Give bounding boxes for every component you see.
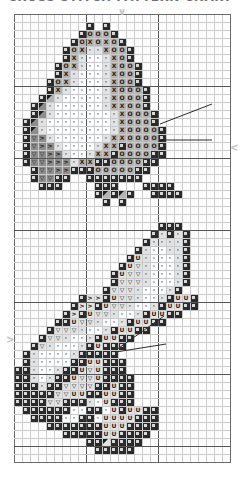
stitch-cell[interactable]: ·	[62, 134, 70, 142]
stitch-cell[interactable]: O	[134, 126, 142, 134]
stitch-cell[interactable]	[94, 430, 102, 438]
stitch-cell[interactable]: ·	[94, 102, 102, 110]
stitch-cell[interactable]: O	[150, 126, 158, 134]
stitch-cell[interactable]	[110, 350, 118, 358]
stitch-cell[interactable]: ·	[110, 110, 118, 118]
stitch-cell[interactable]: ·	[94, 134, 102, 142]
stitch-cell[interactable]	[22, 382, 30, 390]
stitch-cell[interactable]: ▽	[118, 302, 126, 310]
stitch-cell[interactable]: ·	[46, 110, 54, 118]
stitch-cell[interactable]: ·	[86, 134, 94, 142]
stitch-cell[interactable]: ·	[86, 102, 94, 110]
stitch-cell[interactable]	[126, 446, 134, 454]
stitch-cell[interactable]: U	[134, 406, 142, 414]
stitch-cell[interactable]: ·	[166, 254, 174, 262]
stitch-cell[interactable]: X	[54, 86, 62, 94]
stitch-cell[interactable]	[150, 422, 158, 430]
stitch-cell[interactable]: ▽	[134, 270, 142, 278]
stitch-cell[interactable]: X	[62, 70, 70, 78]
stitch-cell[interactable]: U	[126, 406, 134, 414]
stitch-cell[interactable]	[110, 30, 118, 38]
stitch-cell[interactable]: ·	[54, 342, 62, 350]
stitch-cell[interactable]: ·	[94, 414, 102, 422]
stitch-cell[interactable]	[102, 358, 110, 366]
stitch-cell[interactable]	[94, 446, 102, 454]
stitch-cell[interactable]: ·	[38, 118, 46, 126]
stitch-cell[interactable]	[22, 126, 30, 134]
stitch-cell[interactable]	[134, 70, 142, 78]
stitch-cell[interactable]	[182, 238, 190, 246]
stitch-cell[interactable]	[118, 198, 126, 206]
stitch-cell[interactable]: ·	[142, 302, 150, 310]
stitch-cell[interactable]	[150, 318, 158, 326]
stitch-cell[interactable]: ·	[174, 270, 182, 278]
stitch-cell[interactable]	[38, 398, 46, 406]
stitch-cell[interactable]: >	[38, 142, 46, 150]
stitch-cell[interactable]: O	[150, 142, 158, 150]
stitch-cell[interactable]: U	[166, 302, 174, 310]
stitch-cell[interactable]: O	[54, 78, 62, 86]
stitch-cell[interactable]: ▽	[62, 382, 70, 390]
stitch-cell[interactable]: ▽	[46, 398, 54, 406]
stitch-cell[interactable]	[102, 286, 110, 294]
stitch-cell[interactable]	[134, 78, 142, 86]
stitch-cell[interactable]	[118, 334, 126, 342]
stitch-cell[interactable]	[70, 430, 78, 438]
stitch-cell[interactable]	[30, 174, 38, 182]
stitch-cell[interactable]: ·	[46, 342, 54, 350]
stitch-cell[interactable]: ·	[54, 102, 62, 110]
stitch-cell[interactable]: U	[70, 390, 78, 398]
stitch-cell[interactable]	[102, 158, 110, 166]
stitch-cell[interactable]	[38, 390, 46, 398]
stitch-cell[interactable]: O	[126, 86, 134, 94]
stitch-cell[interactable]	[182, 230, 190, 238]
stitch-cell[interactable]	[22, 398, 30, 406]
stitch-cell[interactable]: ·	[54, 118, 62, 126]
stitch-cell[interactable]: ▽	[134, 278, 142, 286]
stitch-cell[interactable]: O	[126, 150, 134, 158]
stitch-cell[interactable]: ·	[150, 294, 158, 302]
stitch-cell[interactable]: ·	[94, 318, 102, 326]
stitch-cell[interactable]	[86, 174, 94, 182]
stitch-cell[interactable]: X	[102, 38, 110, 46]
stitch-cell[interactable]: ·	[86, 150, 94, 158]
stitch-cell[interactable]: ·	[54, 110, 62, 118]
stitch-cell[interactable]	[142, 238, 150, 246]
stitch-cell[interactable]: X	[102, 46, 110, 54]
stitch-cell[interactable]	[62, 422, 70, 430]
stitch-cell[interactable]: X	[102, 150, 110, 158]
stitch-cell[interactable]: ·	[70, 86, 78, 94]
stitch-cell[interactable]	[70, 422, 78, 430]
stitch-cell[interactable]	[142, 430, 150, 438]
stitch-cell[interactable]: ·	[94, 62, 102, 70]
stitch-cell[interactable]	[14, 390, 22, 398]
stitch-cell[interactable]: X	[118, 126, 126, 134]
stitch-cell[interactable]	[102, 350, 110, 358]
stitch-cell[interactable]: O	[134, 86, 142, 94]
stitch-cell[interactable]: U	[102, 414, 110, 422]
stitch-cell[interactable]: ·	[150, 246, 158, 254]
stitch-cell[interactable]	[70, 398, 78, 406]
stitch-cell[interactable]: ·	[62, 86, 70, 94]
stitch-cell[interactable]: U	[110, 390, 118, 398]
stitch-cell[interactable]: ·	[102, 86, 110, 94]
stitch-cell[interactable]: ·	[102, 134, 110, 142]
stitch-cell[interactable]: ▽	[126, 270, 134, 278]
stitch-cell[interactable]: U	[118, 422, 126, 430]
stitch-cell[interactable]: ·	[174, 238, 182, 246]
stitch-cell[interactable]	[30, 126, 38, 134]
cross-stitch-chart[interactable]: OOOOXOXOOX··XOOX····XOOX····XOOX·····XOO…	[14, 14, 230, 463]
stitch-cell[interactable]: >	[46, 150, 54, 158]
stitch-cell[interactable]: U	[70, 374, 78, 382]
stitch-cell[interactable]: O	[142, 118, 150, 126]
stitch-cell[interactable]	[94, 182, 102, 190]
stitch-cell[interactable]: ▽	[110, 286, 118, 294]
stitch-cell[interactable]: >	[62, 158, 70, 166]
stitch-cell[interactable]	[102, 22, 110, 30]
stitch-cell[interactable]: ▽	[78, 374, 86, 382]
stitch-cell[interactable]: O	[70, 46, 78, 54]
stitch-cell[interactable]	[150, 150, 158, 158]
stitch-cell[interactable]	[14, 366, 22, 374]
stitch-cell[interactable]	[86, 390, 94, 398]
stitch-cell[interactable]: ·	[38, 366, 46, 374]
